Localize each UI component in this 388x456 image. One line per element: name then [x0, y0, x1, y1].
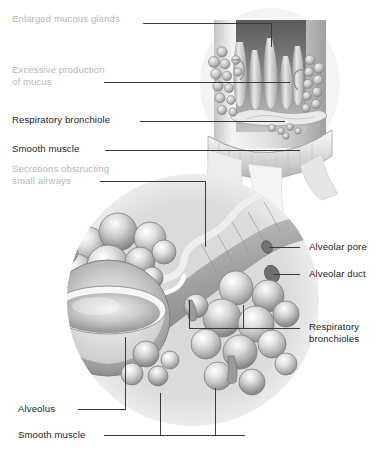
label-excessive-production-line2: of mucus	[12, 76, 52, 88]
label-respiratory-bronchiole: Respiratory bronchiole	[12, 114, 110, 126]
label-excessive-production-line1: Excessive production	[12, 64, 105, 76]
label-alveolar-duct: Alveolar duct	[309, 268, 366, 280]
label-alveolar-pore: Alveolar pore	[309, 241, 367, 253]
label-secretions-line1: Secretions obstructing	[12, 163, 109, 175]
label-alveolus: Alveolus	[18, 403, 55, 415]
label-enlarged-mucous-glands: Enlarged mucous glands	[12, 13, 120, 25]
label-secretions-line2: small airways	[12, 175, 71, 187]
label-smooth-muscle-top: Smooth muscle	[12, 143, 79, 155]
label-respiratory-bronchioles-line1: Respiratory	[309, 321, 359, 333]
label-smooth-muscle-bottom: Smooth muscle	[18, 429, 85, 441]
label-respiratory-bronchioles-line2: bronchioles	[309, 333, 359, 345]
